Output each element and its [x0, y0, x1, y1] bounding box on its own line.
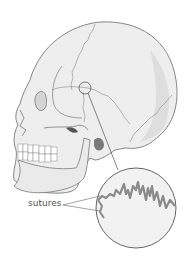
- sutures-label: sutures: [28, 198, 61, 208]
- eye-socket: [35, 91, 47, 110]
- label-leader-1: [63, 196, 100, 205]
- magnified-callout-circle: [96, 168, 176, 248]
- skull-diagram: [0, 0, 190, 263]
- label-leader-2: [63, 205, 100, 211]
